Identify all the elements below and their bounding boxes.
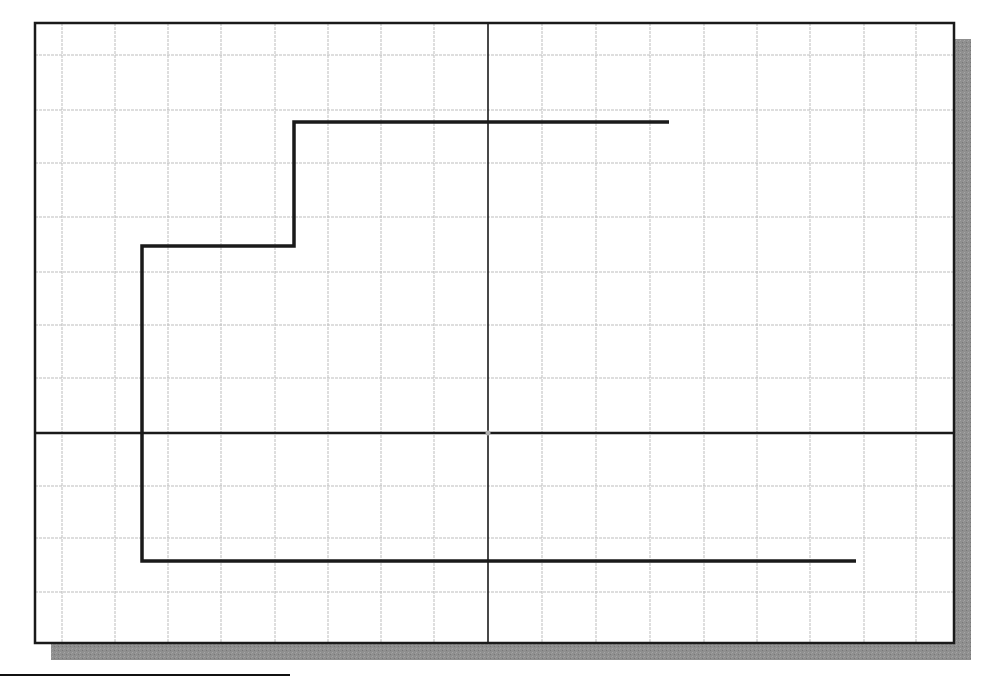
cad-drawing-canvas	[0, 0, 991, 678]
origin-marker	[486, 431, 491, 436]
drawing-area-background	[35, 23, 954, 643]
shadow-right	[955, 39, 971, 659]
shadow-bottom	[51, 644, 971, 660]
